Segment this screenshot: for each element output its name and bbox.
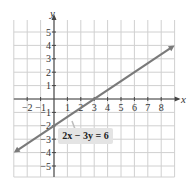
y-axis-label: y — [49, 7, 55, 19]
y-tick-label: 2 — [46, 67, 51, 78]
y-tick-label: −5 — [40, 161, 51, 172]
x-tick-label: 7 — [145, 102, 150, 113]
x-tick-label: 3 — [92, 102, 97, 113]
x-tick-label: −2 — [22, 102, 33, 113]
y-tick-label: 5 — [46, 27, 51, 38]
coordinate-plane: −2−11234567854321−1−2−3−4−5 x y — [0, 0, 194, 185]
y-tick-label: −4 — [40, 147, 51, 158]
x-tick-label: 6 — [132, 102, 137, 113]
x-tick-label: 4 — [105, 102, 110, 113]
y-tick-label: 3 — [46, 53, 51, 64]
x-tick-label: 5 — [119, 102, 124, 113]
x-axis-arrow-icon — [175, 97, 181, 102]
y-tick-label: 4 — [46, 40, 51, 51]
x-tick-label: 1 — [65, 102, 70, 113]
x-axis-label: x — [180, 93, 186, 105]
y-tick-label: −3 — [40, 134, 51, 145]
y-tick-label: 1 — [46, 80, 51, 91]
y-tick-label: −1 — [40, 107, 51, 118]
x-tick-label: 8 — [159, 102, 164, 113]
equation-text: 2x − 3y = 6 — [62, 130, 108, 141]
equation-label: 2x − 3y = 6 — [58, 128, 113, 144]
